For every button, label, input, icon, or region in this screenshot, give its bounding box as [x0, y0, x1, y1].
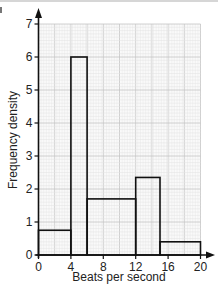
y-tick-label: 2	[26, 182, 33, 196]
grid	[39, 24, 201, 255]
histogram-chart: 048121620 01234567 Beats per second Freq…	[0, 0, 218, 287]
y-axis-title: Frequency density	[6, 91, 20, 189]
axes	[35, 8, 215, 259]
x-axis-arrow-icon	[206, 252, 215, 259]
x-tick-label: 0	[35, 260, 42, 274]
y-axis-arrow-icon	[35, 8, 42, 18]
y-axis-ticks: 01234567	[26, 17, 39, 262]
y-tick-label: 5	[26, 83, 33, 97]
x-axis-title: Beats per second	[72, 270, 165, 284]
y-tick-label: 4	[26, 116, 33, 130]
y-tick-label: 7	[26, 17, 33, 31]
y-tick-label: 0	[26, 248, 33, 262]
y-tick-label: 6	[26, 50, 33, 64]
x-tick-label: 20	[194, 260, 208, 274]
y-tick-label: 3	[26, 149, 33, 163]
y-tick-label: 1	[26, 215, 33, 229]
